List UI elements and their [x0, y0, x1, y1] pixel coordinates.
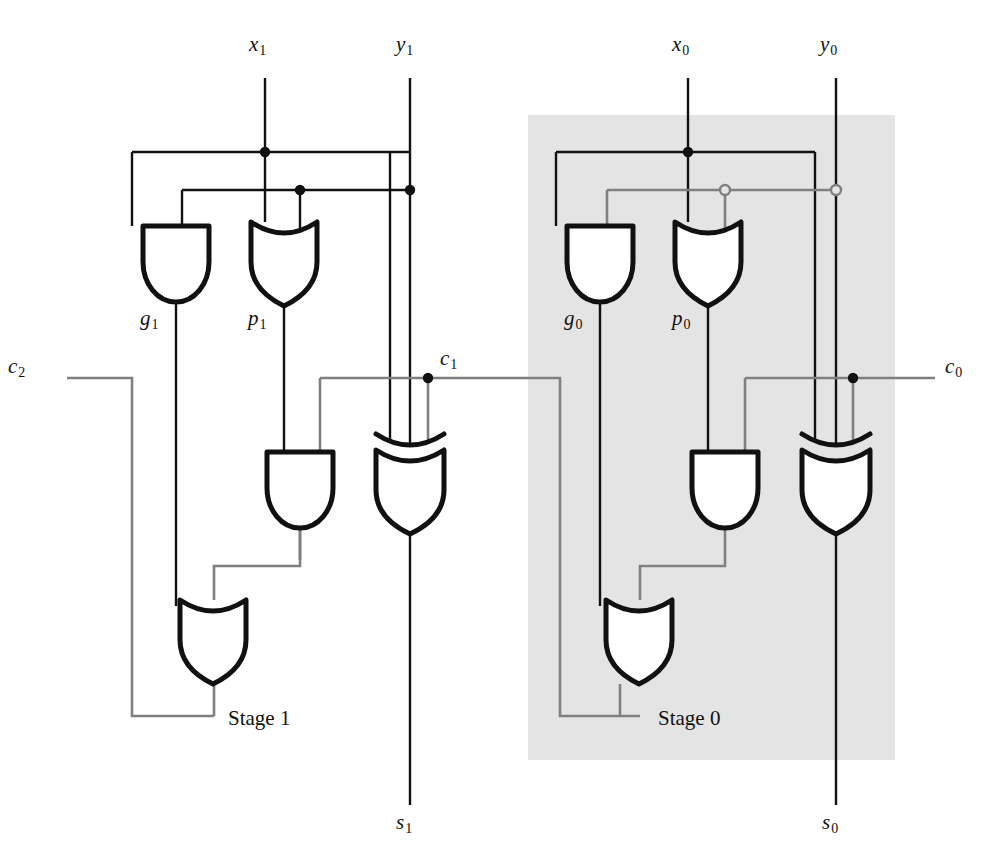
- junction-dot-y0-a: [720, 185, 730, 195]
- gate-and-g1[interactable]: [143, 226, 209, 302]
- junction-dot-c0: [848, 373, 858, 383]
- label-y0: y0: [820, 34, 836, 55]
- gate-and-g0[interactable]: [567, 226, 633, 302]
- label-s1: s1: [396, 812, 411, 833]
- junction-dot-y1-b: [405, 185, 415, 195]
- label-y1: y1: [396, 34, 412, 55]
- label-x0: x0: [672, 34, 688, 55]
- gate-xor-s1[interactable]: [376, 434, 444, 534]
- figure-canvas: x1 y1 x0 y0 g1 p1 g0 p0 c2 c1 c0 s1 s0 S…: [0, 0, 1003, 860]
- junction-dot-x1: [260, 147, 270, 157]
- junction-dot-c1: [423, 373, 433, 383]
- label-c2: c2: [8, 356, 24, 377]
- circuit-diagram: [0, 0, 1003, 860]
- label-g0: g0: [564, 308, 582, 329]
- label-stage-1: Stage 1: [228, 706, 290, 731]
- label-x1: x1: [249, 34, 265, 55]
- junction-dot-x0: [683, 147, 693, 157]
- junction-dot-y1-a: [295, 185, 305, 195]
- gate-and-mid-stage0[interactable]: [692, 452, 758, 528]
- label-p0: p0: [672, 308, 690, 329]
- label-c1: c1: [440, 348, 456, 369]
- label-c0: c0: [945, 356, 961, 377]
- label-s0: s0: [822, 812, 837, 833]
- label-stage-0: Stage 0: [658, 706, 720, 731]
- gate-or-p1[interactable]: [251, 222, 317, 306]
- gate-and-mid-stage1[interactable]: [267, 452, 333, 528]
- junction-dot-y0-b: [831, 185, 841, 195]
- label-g1: g1: [140, 308, 158, 329]
- stage1-wires: [132, 78, 410, 805]
- label-p1: p1: [248, 308, 266, 329]
- gate-or-c2[interactable]: [180, 600, 246, 684]
- stage0-shaded-region: [528, 115, 895, 760]
